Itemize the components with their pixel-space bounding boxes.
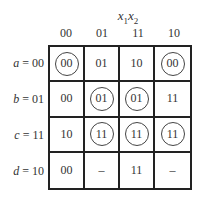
state-value: 01 — [96, 56, 108, 71]
row-var: d — [13, 164, 19, 178]
row-header: d = 10 — [0, 164, 44, 179]
transition-table-grid: 00011000000101111011111100–11– — [48, 45, 192, 190]
table-cell: 01 — [85, 47, 120, 82]
column-header: 11 — [120, 26, 156, 41]
circled-state-value: 11 — [90, 122, 114, 146]
circled-state-value: 00 — [55, 52, 79, 76]
circled-state-value: 01 — [90, 87, 114, 111]
circled-state-value: 01 — [125, 87, 149, 111]
row-var: a — [13, 56, 19, 70]
row-code: = 00 — [22, 56, 44, 70]
table-cell: 01 — [120, 82, 155, 117]
row-header: b = 01 — [0, 92, 44, 107]
table-cell: 01 — [85, 82, 120, 117]
table-cell: 11 — [85, 118, 120, 153]
column-header: 10 — [156, 26, 192, 41]
column-header: 00 — [48, 26, 84, 41]
row-var: b — [13, 92, 19, 106]
state-value: 11 — [131, 163, 143, 178]
state-value: – — [99, 163, 105, 178]
table-cell: 11 — [155, 118, 190, 153]
table-cell: – — [85, 153, 120, 188]
column-variables-label: x1x2 — [108, 8, 148, 26]
state-value: 00 — [61, 163, 73, 178]
row-var: c — [14, 128, 19, 142]
table-cell: 00 — [50, 47, 85, 82]
table-cell: 11 — [155, 82, 190, 117]
table-cell: 11 — [120, 153, 155, 188]
row-header: c = 11 — [0, 128, 44, 143]
column-header: 01 — [84, 26, 120, 41]
row-header: a = 00 — [0, 56, 44, 71]
row-code: = 11 — [23, 128, 44, 142]
state-value: – — [170, 163, 176, 178]
table-cell: 00 — [155, 47, 190, 82]
row-code: = 01 — [22, 92, 44, 106]
circled-state-value: 11 — [125, 122, 149, 146]
table-cell: 00 — [50, 153, 85, 188]
table-cell: 10 — [50, 118, 85, 153]
state-value: 00 — [61, 91, 73, 106]
circled-state-value: 00 — [161, 52, 185, 76]
table-cell: 11 — [120, 118, 155, 153]
table-cell: 10 — [120, 47, 155, 82]
state-value: 10 — [131, 56, 143, 71]
circled-state-value: 11 — [161, 122, 185, 146]
state-value: 10 — [61, 127, 73, 142]
state-value: 11 — [167, 91, 179, 106]
table-cell: – — [155, 153, 190, 188]
table-cell: 00 — [50, 82, 85, 117]
row-code: = 10 — [22, 164, 44, 178]
x2-sub: 2 — [134, 16, 139, 26]
